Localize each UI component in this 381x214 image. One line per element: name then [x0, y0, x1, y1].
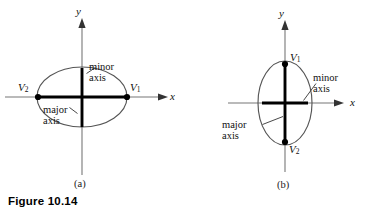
panel-b-vertex-label-v2: V2	[289, 143, 299, 156]
panel-a-vertex-label-v2: V2	[18, 81, 28, 94]
panel-a-vertex-label-v2-letter: V	[18, 81, 25, 93]
panel-b-major-axis-annotation-line2: axis	[222, 130, 247, 141]
panel-a-vertex-label-v1-letter: V	[130, 81, 137, 93]
panel-a-sublabel: (a)	[74, 178, 86, 189]
panel-a-major-axis-annotation-line1: major	[43, 104, 68, 115]
panel-a-graphics	[5, 18, 168, 175]
panel-b-graphics	[228, 20, 344, 172]
panel-b-vertex-label-v1-letter: V	[290, 51, 297, 63]
figure-10-14: y x V2 V1 minor axis major axis (a) y x …	[0, 0, 381, 214]
panel-a-minor-axis-annotation-line2: axis	[89, 72, 114, 83]
panel-a-vertex-label-v1-sub: 1	[137, 85, 141, 94]
panel-b-vertex-dot-v2	[282, 139, 288, 145]
panel-a-minor-axis-annotation: minor axis	[89, 61, 114, 84]
panel-b-x-axis-arrow	[334, 99, 344, 106]
panel-b-y-axis-label: y	[279, 7, 284, 19]
panel-b-minor-axis-annotation-line2: axis	[313, 83, 338, 94]
panel-b-y-axis-arrow	[281, 20, 288, 30]
panel-b-vertex-label-v1-sub: 1	[297, 55, 301, 64]
panel-b-vertex-label-v2-letter: V	[289, 143, 296, 155]
panel-a-vertex-dot-v2	[35, 94, 41, 100]
panel-b-major-axis-annotation-line1: major	[222, 119, 247, 130]
panel-b-vertex-label-v1: V1	[290, 51, 300, 64]
panel-a-vertex-label-v2-sub: 2	[25, 85, 29, 94]
panel-b-vertex-label-v2-sub: 2	[296, 147, 300, 156]
panel-a-major-axis-leader	[70, 108, 78, 114]
panel-b-major-axis-leader	[263, 117, 284, 125]
panel-b-minor-axis-annotation: minor axis	[313, 72, 338, 95]
panel-a-major-axis-annotation-line2: axis	[43, 115, 68, 126]
panel-b-major-axis-annotation: major axis	[222, 119, 247, 142]
panel-a-x-axis-label: x	[170, 90, 175, 102]
panel-b-vertex-dot-v1	[282, 61, 288, 67]
panel-a-y-axis-label: y	[76, 5, 81, 17]
figure-caption: Figure 10.14	[8, 195, 78, 207]
panel-a-vertex-label-v1: V1	[130, 81, 140, 94]
panel-a-vertex-dot-v1	[124, 94, 130, 100]
panel-b-sublabel: (b)	[277, 179, 289, 190]
panel-a-major-axis-annotation: major axis	[43, 104, 68, 127]
panel-b-x-axis-label: x	[350, 96, 355, 108]
panel-a-x-axis-arrow	[158, 93, 168, 100]
panel-a-minor-axis-annotation-line1: minor	[89, 61, 114, 72]
panel-b-minor-axis-annotation-line1: minor	[313, 72, 338, 83]
panel-a-y-axis-arrow	[78, 18, 85, 28]
